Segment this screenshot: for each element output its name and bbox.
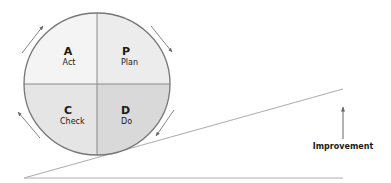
do-label: Do bbox=[121, 117, 132, 126]
act-letter: A bbox=[64, 45, 73, 58]
plan-letter: P bbox=[122, 45, 130, 58]
quadrant-act bbox=[20, 10, 97, 84]
check-letter: C bbox=[64, 104, 72, 117]
do-letter: D bbox=[121, 104, 130, 117]
act-label: Act bbox=[63, 58, 76, 67]
check-label: Check bbox=[60, 117, 85, 126]
improvement-label: Improvement bbox=[313, 142, 374, 151]
quadrant-plan bbox=[97, 10, 174, 84]
quadrant-check bbox=[20, 84, 97, 158]
plan-label: Plan bbox=[121, 58, 138, 67]
pdca-wheel bbox=[20, 10, 174, 158]
pdca-diagram: A Act P Plan C Check D Do Improvement bbox=[0, 0, 391, 183]
